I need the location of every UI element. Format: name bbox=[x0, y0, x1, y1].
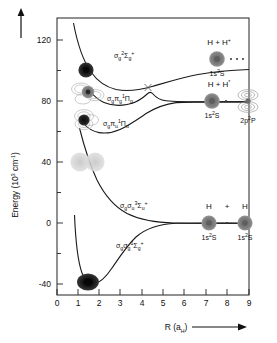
x-tick-6: 6 bbox=[182, 298, 187, 308]
limit-bot-h2: H bbox=[242, 202, 248, 211]
chart-svg: 120 80 40 0 -40 Energy (103 cm-1) 0 1 2 … bbox=[0, 0, 277, 343]
potential-energy-curve-figure: 120 80 40 0 -40 Energy (103 cm-1) 0 1 2 … bbox=[0, 0, 277, 343]
x-tick-3: 3 bbox=[118, 298, 123, 308]
orbital-diagram-sigma-g bbox=[78, 62, 93, 77]
limit-top-term-letter: S bbox=[220, 70, 225, 77]
x-axis-title: R (aH) bbox=[165, 322, 247, 334]
lbl-sub-g: g bbox=[118, 55, 121, 61]
lbl2-sub-g3: g bbox=[130, 98, 133, 104]
svg-text:Energy (103 cm-1): Energy (103 cm-1) bbox=[10, 152, 20, 218]
y-tick-40: 40 bbox=[42, 157, 52, 167]
limit-mid-term2-letter: P bbox=[251, 117, 256, 124]
x-tick-2: 2 bbox=[97, 298, 102, 308]
x-tick-1: 1 bbox=[76, 298, 81, 308]
limit-mid-term1-letter: S bbox=[215, 112, 220, 119]
x-tick-5: 5 bbox=[161, 298, 166, 308]
y-axis-title-unit: cm bbox=[10, 160, 20, 174]
x-tick-8: 8 bbox=[225, 298, 230, 308]
y-axis-arrow bbox=[18, 8, 25, 38]
x-tick-labels: 0 1 2 3 4 5 6 7 8 9 bbox=[55, 298, 252, 308]
y-axis-title: Energy (103 cm-1) bbox=[10, 152, 20, 218]
x-axis-title-main: R (a bbox=[165, 322, 181, 332]
y-tick-neg40: -40 bbox=[39, 279, 52, 289]
limit-bot-term1-letter: S bbox=[212, 234, 217, 241]
y-tick-80: 80 bbox=[42, 96, 52, 106]
lbl3-sub-u: u bbox=[115, 123, 118, 129]
limit-top-plus: + bbox=[228, 37, 231, 43]
lbl2-sub-g2: g bbox=[119, 98, 122, 104]
y-axis-title-main: Energy (10 bbox=[10, 176, 20, 218]
limit-mid-atoms: H + H bbox=[208, 80, 229, 89]
orbital-diagram-sigma-g-bonding bbox=[77, 273, 99, 290]
y-axis-title-close: ) bbox=[10, 152, 20, 155]
limit-bot-h1: H bbox=[206, 202, 212, 211]
x-axis-title-close: ) bbox=[184, 322, 187, 332]
limit-mid-star: * bbox=[228, 79, 230, 85]
lbl5-plus: + bbox=[141, 240, 144, 246]
lbl4-plus: + bbox=[145, 200, 148, 206]
lbl4-sub-u: u bbox=[132, 205, 135, 211]
y-tick-120: 120 bbox=[37, 35, 51, 45]
svg-text:H + H*: H + H* bbox=[208, 79, 231, 89]
limit-mid-term2-base: 2p bbox=[240, 117, 248, 125]
y-tick-0: 0 bbox=[46, 218, 51, 228]
x-tick-0: 0 bbox=[55, 298, 60, 308]
x-tick-9: 9 bbox=[247, 298, 252, 308]
y-tick-labels: 120 80 40 0 -40 bbox=[37, 35, 51, 289]
x-tick-4: 4 bbox=[140, 298, 145, 308]
limit-top-atoms: H + H bbox=[207, 38, 228, 47]
x-tick-7: 7 bbox=[204, 298, 209, 308]
limit-bot-term2-letter: S bbox=[248, 234, 253, 241]
svg-text:R (aH): R (aH) bbox=[165, 322, 188, 334]
lbl5-sub-g2: g bbox=[128, 245, 131, 251]
lbl-plus: + bbox=[131, 50, 134, 56]
limit-bot-plus: + bbox=[225, 202, 230, 211]
svg-text:H + H+: H + H+ bbox=[207, 37, 231, 47]
lbl3-sub-u2: u bbox=[126, 123, 129, 129]
